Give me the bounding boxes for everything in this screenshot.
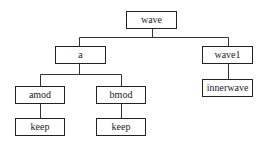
node-innerwave: innerwave	[202, 79, 253, 97]
node-a: a	[55, 46, 106, 64]
node-keep-bmod: keep	[96, 118, 146, 136]
node-keep-amod: keep	[15, 118, 65, 136]
node-wave1: wave1	[202, 46, 253, 64]
node-wave: wave	[126, 11, 177, 29]
edge-wave-children	[80, 29, 229, 46]
node-amod: amod	[15, 86, 65, 104]
edge-mods-keep	[41, 104, 122, 118]
edge-a-children	[41, 64, 122, 86]
node-bmod: bmod	[96, 86, 146, 104]
